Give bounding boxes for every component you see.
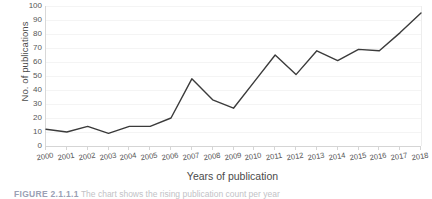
x-tick-label: 2014 [328, 151, 346, 163]
x-tick-label: 2011 [265, 151, 283, 162]
x-tick-label: 2015 [348, 151, 366, 163]
figure-caption: FIGURE 2.1.1.1 The chart shows the risin… [14, 189, 424, 199]
y-tick-label: 70 [18, 44, 42, 52]
y-tick-label: 100 [18, 2, 42, 10]
x-tick-label: 2013 [307, 151, 325, 163]
x-tick-label: 2012 [286, 151, 304, 163]
y-tick-label: 20 [18, 114, 42, 122]
figure-caption-text: The chart shows the rising publication c… [81, 189, 280, 199]
x-tick-label: 2009 [223, 151, 241, 163]
figure-caption-label: FIGURE 2.1.1.1 [14, 189, 79, 199]
x-tick-mark [420, 146, 421, 150]
x-tick-label: 2017 [390, 151, 408, 163]
x-tick-label: 2004 [119, 151, 137, 163]
y-tick-label: 0 [18, 142, 42, 150]
x-tick-label: 2007 [182, 151, 200, 163]
x-tick-label: 2001 [57, 151, 75, 163]
figure-root: No. of publications 10090807060504030201… [0, 0, 432, 199]
x-tick-label: 2002 [78, 151, 96, 163]
x-tick-label: 2008 [203, 151, 221, 163]
x-tick-label: 2010 [244, 151, 262, 163]
y-tick-label: 80 [18, 30, 42, 38]
x-tick-label: 2006 [161, 151, 179, 163]
y-tick-label: 10 [18, 128, 42, 136]
x-tick-label: 2003 [98, 151, 116, 163]
plot-area [45, 6, 422, 146]
x-tick-label: 2018 [411, 151, 429, 163]
y-tick-label: 90 [18, 16, 42, 24]
y-axis-tick-labels: 1009080706050403020100 [18, 6, 42, 146]
y-tick-label: 40 [18, 86, 42, 94]
x-axis-title: Years of publication [45, 170, 420, 182]
series-line [46, 6, 421, 146]
x-tick-label: 2000 [36, 151, 54, 163]
line-chart: No. of publications 10090807060504030201… [0, 0, 432, 172]
x-axis-tick-labels: 2000200120022003200420052006200720082009… [45, 150, 420, 166]
y-tick-label: 30 [18, 100, 42, 108]
x-tick-label: 2005 [140, 151, 158, 163]
y-tick-label: 60 [18, 58, 42, 66]
x-tick-label: 2016 [369, 151, 387, 163]
y-tick-label: 50 [18, 72, 42, 80]
